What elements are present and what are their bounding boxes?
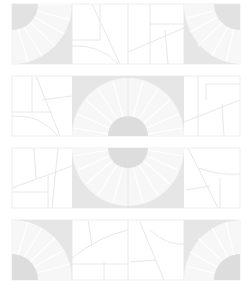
tile-pattern-diagram xyxy=(0,0,250,291)
strip-2 xyxy=(12,76,240,136)
strip-4 xyxy=(12,220,240,280)
strip-1 xyxy=(12,4,240,64)
strip-3 xyxy=(12,148,240,208)
